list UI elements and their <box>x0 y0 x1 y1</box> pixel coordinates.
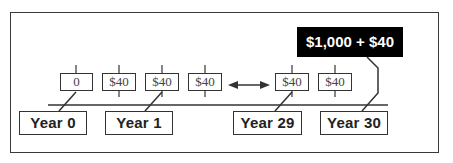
payment-year-3: $40 <box>188 73 222 91</box>
year-1-label: Year 1 <box>105 111 173 135</box>
payment-year-1: $40 <box>102 73 136 91</box>
final-payment-callout: $1,000 + $40 <box>297 27 403 57</box>
year-0-label: Year 0 <box>19 111 87 135</box>
year-30-label: Year 30 <box>320 111 388 135</box>
payment-year-0: 0 <box>60 73 93 91</box>
year-29-label: Year 29 <box>233 111 302 135</box>
payment-year-29: $40 <box>275 73 309 91</box>
payment-year-2: $40 <box>145 73 179 91</box>
double-arrow-icon <box>228 81 270 89</box>
payment-year-30: $40 <box>318 73 352 91</box>
